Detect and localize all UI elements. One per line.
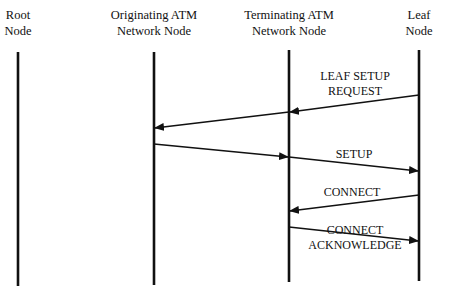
arrow-terminating-to-originating xyxy=(155,112,289,128)
arrow-originating-to-terminating xyxy=(154,144,288,157)
sequence-diagram: Root Node Originating ATM Network Node T… xyxy=(0,0,454,298)
message-setup: SETUP xyxy=(154,144,418,171)
message-leaf-setup-request: LEAF SETUP REQUEST xyxy=(155,69,419,128)
terminating-label-line2: Network Node xyxy=(252,24,326,38)
root-label-line1: Root xyxy=(6,8,31,22)
leaf-setup-request-label-line1: LEAF SETUP xyxy=(320,69,390,83)
leaf-label-line2: Node xyxy=(405,24,433,38)
leaf-label-line1: Leaf xyxy=(408,8,432,22)
root-label-line2: Node xyxy=(4,24,32,38)
message-connect-acknowledge: CONNECT ACKNOWLEDGE xyxy=(289,223,418,252)
connect-label: CONNECT xyxy=(324,185,381,199)
leaf-setup-request-label-line2: REQUEST xyxy=(328,84,383,98)
originating-label-line2: Network Node xyxy=(117,24,191,38)
originating-label-line1: Originating ATM xyxy=(111,8,197,22)
message-connect: CONNECT xyxy=(290,185,419,211)
terminating-label-line1: Terminating ATM xyxy=(244,8,334,22)
participant-root: Root Node xyxy=(4,8,32,286)
setup-label: SETUP xyxy=(336,147,373,161)
connect-ack-label-line2: ACKNOWLEDGE xyxy=(308,238,401,252)
